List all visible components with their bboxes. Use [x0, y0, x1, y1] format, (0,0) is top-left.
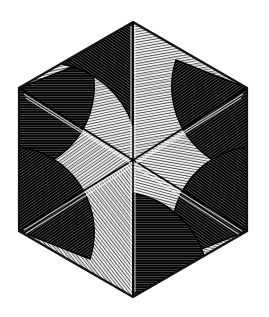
- artboard: [0, 0, 269, 317]
- hexagon-engraving-figure: [0, 0, 269, 317]
